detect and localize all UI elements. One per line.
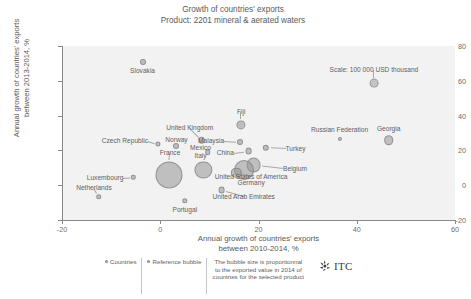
- reference-bubble-icon: [147, 260, 150, 263]
- y-tick-label: 20: [412, 146, 466, 155]
- x-tick-label: 20: [239, 225, 279, 234]
- country-bubble[interactable]: [245, 148, 252, 155]
- itc-mark-icon: [318, 259, 332, 273]
- x-tick-label: 40: [337, 225, 377, 234]
- y-tick-mark: [58, 81, 62, 82]
- y-axis-title: Annual growth of countries' exports betw…: [12, 0, 32, 163]
- x-tick-label: 60: [435, 225, 471, 234]
- y-tick-mark: [58, 185, 62, 186]
- country-label: United Arab Emirates: [213, 193, 275, 201]
- country-bubble[interactable]: [155, 161, 182, 188]
- country-label: Turkey: [286, 145, 306, 153]
- country-label: China: [217, 149, 234, 157]
- country-label: Russian Federation: [311, 126, 368, 134]
- reference-bubble[interactable]: [370, 79, 379, 88]
- x-axis-title-line-2: between 2010-2014, %: [62, 244, 455, 254]
- title-line-2: Product: 2201 mineral & aerated waters: [0, 15, 466, 26]
- country-bubble[interactable]: [96, 194, 102, 200]
- y-tick-label: 40: [412, 111, 466, 120]
- y-tick-mark: [58, 46, 62, 47]
- country-label: Belgium: [283, 165, 307, 173]
- y-tick-label: 60: [412, 76, 466, 85]
- y-axis-title-line-1: Annual growth of countries' exports: [12, 0, 22, 163]
- y-tick-label: 0: [412, 181, 466, 190]
- country-label: Italy: [194, 152, 206, 160]
- x-tick-mark: [62, 220, 63, 224]
- legend-countries-label: Countries: [110, 258, 136, 265]
- scale-annotation-label: Scale: 100 000 USD thousand: [330, 66, 419, 74]
- x-tick-label: 0: [140, 225, 180, 234]
- country-bubble[interactable]: [140, 59, 146, 65]
- x-axis-title: Annual growth of countries' exports betw…: [62, 234, 455, 254]
- x-tick-mark: [455, 220, 456, 224]
- country-label: United Kingdom: [166, 124, 213, 132]
- country-label: France: [160, 149, 181, 157]
- country-label: Netherlands: [76, 184, 112, 192]
- country-label: Norway: [165, 136, 187, 144]
- legend-item-reference-bubble[interactable]: Reference bubble: [142, 258, 206, 265]
- y-tick-mark: [58, 116, 62, 117]
- legend-item-countries[interactable]: Countries: [100, 258, 141, 265]
- country-label: Czech Republic: [102, 137, 148, 145]
- chart-title: Growth of countries' exports Product: 22…: [0, 4, 466, 26]
- y-tick-label: 80: [412, 42, 466, 51]
- x-tick-mark: [160, 220, 161, 224]
- y-axis-title-line-2: between 2013-2014, %: [22, 0, 32, 163]
- country-label: Georgia: [377, 125, 400, 133]
- y-axis-line: [62, 46, 63, 220]
- country-bubble[interactable]: [237, 139, 243, 145]
- country-label: Mexico: [190, 144, 211, 152]
- x-tick-mark: [259, 220, 260, 224]
- country-label: Slovakia: [130, 67, 155, 75]
- label-leader-line: [270, 147, 285, 149]
- y-tick-label: -20: [412, 216, 466, 225]
- title-line-1: Growth of countries' exports: [0, 4, 466, 15]
- country-bubble[interactable]: [384, 135, 394, 145]
- bubble-icon: [105, 260, 108, 263]
- x-tick-mark: [357, 220, 358, 224]
- itc-logo-text: ITC: [334, 260, 353, 272]
- legend-item-note: The bubble size is proportionnal to the …: [207, 258, 309, 281]
- legend-note-text: The bubble size is proportionnal to the …: [212, 258, 304, 281]
- country-label: Fiji: [237, 108, 245, 116]
- country-label: Portugal: [173, 206, 198, 214]
- country-label: United States of America: [215, 173, 288, 181]
- country-label: Luxembourg: [87, 174, 124, 182]
- x-tick-label: -20: [42, 225, 82, 234]
- x-axis-title-line-1: Annual growth of countries' exports: [62, 234, 455, 244]
- itc-logo: ITC: [318, 259, 353, 273]
- y-tick-mark: [58, 150, 62, 151]
- legend-reference-label: Reference bubble: [152, 258, 201, 265]
